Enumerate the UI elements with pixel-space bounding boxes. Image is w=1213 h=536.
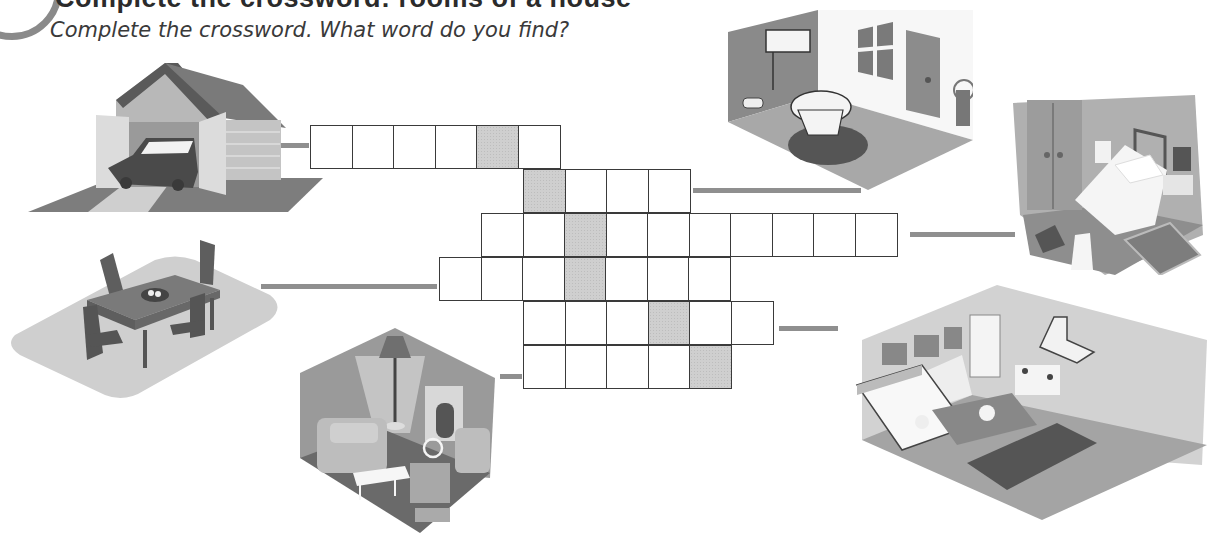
crossword-cell[interactable]: [606, 301, 649, 345]
crossword-cell[interactable]: [606, 169, 649, 213]
crossword-cell-highlighted[interactable]: [564, 213, 607, 257]
crossword-cell[interactable]: [772, 213, 815, 257]
crossword-cell[interactable]: [523, 213, 566, 257]
crossword-cell[interactable]: [393, 125, 436, 169]
connector-dining-room: [261, 284, 437, 289]
crossword-row-1: [310, 125, 559, 169]
crossword-cell[interactable]: [648, 345, 691, 389]
exercise-heading: Complete the crossword: rooms of a house: [55, 0, 632, 14]
crossword-cell[interactable]: [439, 257, 482, 301]
crossword-cell[interactable]: [518, 125, 561, 169]
crossword-cell[interactable]: [648, 169, 691, 213]
bathroom-illustration: [728, 10, 973, 190]
crossword-cell[interactable]: [813, 213, 856, 257]
crossword-cell[interactable]: [352, 125, 395, 169]
crossword-row-3: [481, 213, 896, 257]
bedroom-illustration: [1005, 85, 1210, 275]
connector-living-room: [500, 374, 522, 379]
dining-room-illustration: [5, 235, 280, 405]
crossword-cell[interactable]: [481, 257, 524, 301]
crossword-cell[interactable]: [689, 301, 732, 345]
crossword-cell-highlighted[interactable]: [648, 301, 691, 345]
living-room-illustration: [295, 328, 500, 533]
crossword-cell-highlighted[interactable]: [564, 257, 607, 301]
crossword-cell[interactable]: [565, 301, 608, 345]
crossword-cell-highlighted[interactable]: [523, 169, 566, 213]
kitchen-illustration: [822, 285, 1207, 525]
crossword-cell[interactable]: [647, 213, 690, 257]
crossword-cell[interactable]: [522, 257, 565, 301]
crossword-cell[interactable]: [435, 125, 478, 169]
connector-bedroom: [910, 232, 1015, 237]
crossword-cell[interactable]: [855, 213, 898, 257]
crossword-row-5: [523, 301, 772, 345]
exercise-instruction: Complete the crossword. What word do you…: [50, 18, 569, 42]
crossword-cell[interactable]: [565, 169, 608, 213]
crossword-cell[interactable]: [523, 345, 566, 389]
crossword-cell[interactable]: [481, 213, 524, 257]
crossword-cell[interactable]: [647, 257, 690, 301]
crossword-cell[interactable]: [605, 257, 648, 301]
crossword-cell[interactable]: [606, 345, 649, 389]
garage-illustration: [28, 60, 323, 215]
crossword-cell[interactable]: [523, 301, 566, 345]
crossword-row-2: [523, 169, 689, 213]
crossword-cell[interactable]: [606, 213, 649, 257]
crossword-row-4: [439, 257, 730, 301]
crossword-cell[interactable]: [688, 257, 731, 301]
crossword-cell[interactable]: [730, 213, 773, 257]
crossword-cell[interactable]: [731, 301, 774, 345]
crossword-cell[interactable]: [565, 345, 608, 389]
crossword-cell-highlighted[interactable]: [476, 125, 519, 169]
crossword-cell[interactable]: [689, 213, 732, 257]
crossword-row-6: [523, 345, 731, 389]
crossword-cell-highlighted[interactable]: [689, 345, 732, 389]
